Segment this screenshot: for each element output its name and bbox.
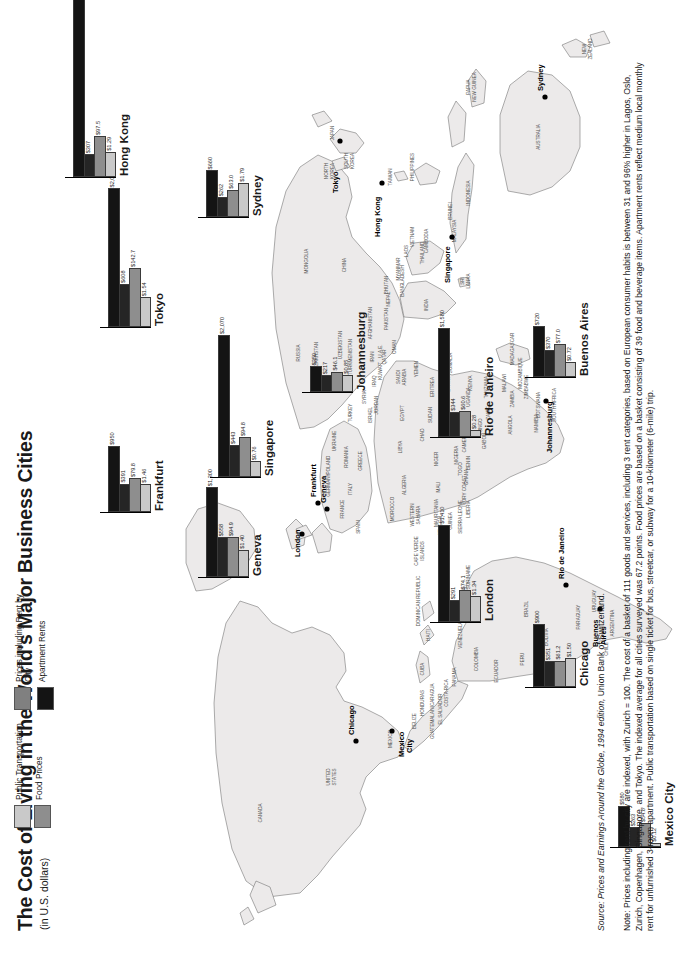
bar-value-label: $217 — [322, 362, 328, 374]
legend-label-rent: Apartment Rents — [37, 586, 47, 682]
bar-value-label: $94.9 — [228, 522, 234, 536]
source-title: Prices and Earnings Around the Globe, 19… — [596, 699, 606, 899]
svg-text:Chicago: Chicago — [347, 705, 356, 735]
svg-text:LAOS: LAOS — [404, 245, 409, 257]
svg-text:MALI: MALI — [436, 482, 441, 493]
svg-text:UNITED: UNITED — [326, 768, 331, 786]
svg-text:HONDURAS: HONDURAS — [420, 690, 425, 716]
bar-public-transportation — [565, 658, 577, 687]
legend-item-transport: Public Transportation — [14, 704, 31, 828]
source-publisher: Union Bank of Switzerland. — [596, 593, 606, 699]
note-text: Note: Prices including rent by city are … — [622, 51, 657, 931]
legend-swatch-rent — [37, 687, 54, 710]
svg-text:GHANA: GHANA — [464, 468, 469, 485]
svg-text:VIETNAM: VIETNAM — [410, 227, 415, 248]
svg-text:ARGENTINA: ARGENTINA — [610, 609, 615, 637]
svg-text:ANGOLA: ANGOLA — [508, 414, 513, 434]
svg-text:NIGER: NIGER — [434, 451, 439, 466]
svg-text:UGANDA: UGANDA — [466, 386, 471, 407]
svg-text:BOLIVIA: BOLIVIA — [544, 627, 549, 646]
svg-text:FRANCE: FRANCE — [340, 500, 345, 519]
bar-group-label: Buenos Aires — [578, 302, 590, 376]
bar-value-label: $0.72 — [566, 347, 572, 361]
svg-text:PHILIPPINES: PHILIPPINES — [410, 153, 415, 181]
bar-apartment-rents — [108, 188, 120, 327]
bar-value-label: $1,580 — [439, 310, 445, 327]
svg-text:SUDAN: SUDAN — [428, 407, 433, 423]
svg-text:HAITI: HAITI — [426, 629, 431, 641]
svg-text:ALGERIA: ALGERIA — [402, 474, 407, 495]
svg-text:EGYPT: EGYPT — [400, 405, 405, 421]
svg-text:UZBEKISTAN: UZBEKISTAN — [338, 331, 343, 360]
bar-value-label: $900 — [534, 611, 540, 623]
svg-text:SAUDI: SAUDI — [396, 370, 401, 384]
bar-value-label: $720 — [534, 313, 540, 325]
svg-text:CAMBODIA: CAMBODIA — [424, 228, 429, 253]
bar-value-label: $351 — [545, 648, 551, 660]
bar-food-prices — [217, 537, 229, 577]
bar-public-transportation — [342, 375, 354, 392]
svg-text:STATES: STATES — [332, 768, 337, 785]
svg-text:KUWAIT: KUWAIT — [378, 362, 383, 380]
bar-prices-including-rent-by-city — [129, 268, 141, 327]
svg-text:PERU: PERU — [520, 653, 525, 666]
svg-text:Geneva: Geneva — [319, 475, 328, 503]
bar-food-prices — [119, 284, 131, 327]
bar-value-label: $307 — [85, 141, 91, 153]
svg-text:TAIWAN: TAIWAN — [388, 168, 393, 185]
bar-apartment-rents — [206, 170, 218, 217]
svg-text:LIBYA: LIBYA — [398, 440, 403, 454]
bar-prices-including-rent-by-city — [554, 344, 566, 377]
bar-public-transportation — [238, 183, 250, 217]
svg-text:Tokyo: Tokyo — [331, 171, 340, 193]
svg-text:TOGO: TOGO — [458, 462, 463, 476]
legend-column-2: Prices including Rent by City Apartment … — [14, 586, 57, 710]
svg-text:EL SALVADOR: EL SALVADOR — [438, 693, 443, 725]
bar-food-prices — [544, 350, 556, 377]
svg-text:CAPE VERDE: CAPE VERDE — [414, 536, 419, 566]
bar-value-label: $79.8 — [130, 463, 136, 477]
bar-group-label: Chicago — [578, 641, 590, 686]
svg-text:OMAN: OMAN — [392, 340, 397, 354]
svg-text:UKRAINE: UKRAINE — [332, 431, 337, 451]
bar-value-label: $350 — [311, 353, 317, 365]
bar-apartment-rents — [73, 0, 85, 177]
svg-text:SPAIN: SPAIN — [356, 520, 361, 533]
bar-food-prices — [229, 445, 241, 477]
svg-text:ARABIA: ARABIA — [402, 368, 407, 386]
bar-group-label: Tokyo — [153, 293, 165, 326]
bar-value-label: $1,410 — [439, 507, 445, 524]
svg-text:CHINA: CHINA — [342, 257, 347, 272]
svg-text:Singapore: Singapore — [443, 246, 452, 283]
bar-group-label: London — [483, 579, 495, 621]
bar-public-transportation — [140, 297, 152, 327]
svg-text:MOROCCO: MOROCCO — [390, 496, 395, 521]
bar-value-label: $1.50 — [566, 643, 572, 657]
svg-text:Frankfurt: Frankfurt — [309, 464, 318, 497]
bar-group-label: Johannesburg — [355, 312, 367, 391]
svg-text:JAPAN: JAPAN — [330, 126, 335, 140]
legend-label-transport: Public Transportation — [14, 704, 24, 800]
svg-text:MADAGASCAR: MADAGASCAR — [510, 332, 515, 365]
svg-text:RUSSIA: RUSSIA — [296, 344, 301, 362]
bar-prices-including-rent-by-city — [554, 661, 566, 687]
svg-text:BENIN: BENIN — [466, 456, 471, 470]
svg-text:MONGOLIA: MONGOLIA — [304, 248, 309, 274]
svg-text:PARAGUAY: PARAGUAY — [576, 605, 581, 630]
legend-item-price-index: Prices including Rent by City — [14, 586, 34, 710]
bar-value-label: $1.79 — [239, 168, 245, 182]
svg-text:BELIZE: BELIZE — [412, 713, 417, 729]
legend-item-food: Food Prices — [34, 704, 51, 828]
bar-value-label: $262 — [218, 184, 224, 196]
svg-text:DOMINICAN REPUBLIC: DOMINICAN REPUBLIC — [416, 575, 421, 626]
svg-text:MYANMAR: MYANMAR — [396, 257, 401, 281]
bar-value-label: $60.6 — [460, 396, 466, 410]
bar-value-label: $1.46 — [141, 469, 147, 483]
legend-swatch-transport — [14, 805, 31, 828]
source-prefix: Source: — [596, 899, 606, 931]
bar-apartment-rents — [533, 624, 545, 687]
bar-apartment-rents — [206, 487, 218, 577]
bar-value-label: $74.1 — [460, 575, 466, 589]
bar-value-label: $63.0 — [228, 175, 234, 189]
source-line: Source: Prices and Earnings Around the G… — [596, 593, 606, 931]
